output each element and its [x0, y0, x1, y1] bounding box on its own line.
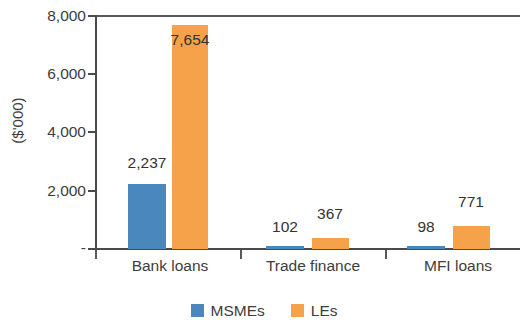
- legend-item-les[interactable]: LEs: [291, 303, 338, 319]
- y-tick-label-0: -: [16, 240, 86, 256]
- legend-item-msmes[interactable]: MSMEs: [191, 303, 265, 319]
- chart-legend: MSMEs LEs: [0, 303, 528, 319]
- y-tick-label-2000: 2,000: [16, 183, 86, 199]
- x-category-label-mfi-loans: MFI loans: [396, 258, 520, 274]
- bar-chart: ($'000) 8,000 6,000 4,000 2,000 - 2,237 …: [0, 0, 528, 327]
- bar-msmes-mfi-loans[interactable]: [407, 246, 445, 249]
- legend-label-msmes: MSMEs: [211, 303, 265, 319]
- x-tick-mark-2: [385, 250, 387, 259]
- x-tick-mark-start: [95, 250, 97, 259]
- value-label-msmes-bank-loans: 2,237: [113, 155, 181, 171]
- bar-msmes-trade-finance[interactable]: [266, 246, 304, 249]
- legend-swatch-msmes-icon: [191, 304, 204, 317]
- legend-label-les: LEs: [311, 303, 338, 319]
- x-category-label-trade-finance: Trade finance: [251, 258, 375, 274]
- y-tick-mark-2000: [88, 190, 96, 192]
- value-label-les-trade-finance: 367: [297, 206, 363, 222]
- y-tick-mark-4000: [88, 131, 96, 133]
- bar-msmes-bank-loans[interactable]: [128, 184, 166, 249]
- legend-swatch-les-icon: [291, 304, 304, 317]
- value-label-les-mfi-loans: 771: [438, 194, 504, 210]
- bar-les-trade-finance[interactable]: [312, 238, 349, 249]
- x-tick-mark-1: [240, 250, 242, 259]
- y-tick-label-8000: 8,000: [16, 8, 86, 24]
- value-label-msmes-mfi-loans: 98: [393, 219, 459, 235]
- y-tick-label-6000: 6,000: [16, 66, 86, 82]
- bar-les-bank-loans[interactable]: [172, 25, 208, 249]
- x-category-label-bank-loans: Bank loans: [108, 258, 232, 274]
- y-tick-label-4000: 4,000: [16, 124, 86, 140]
- y-tick-mark-6000: [88, 73, 96, 75]
- plot-area: 2,237 7,654 102 367 98 771: [97, 15, 520, 249]
- y-tick-mark-8000: [88, 15, 96, 17]
- y-axis-tick-labels: 8,000 6,000 4,000 2,000 -: [8, 0, 86, 327]
- value-label-les-bank-loans: 7,654: [156, 32, 224, 48]
